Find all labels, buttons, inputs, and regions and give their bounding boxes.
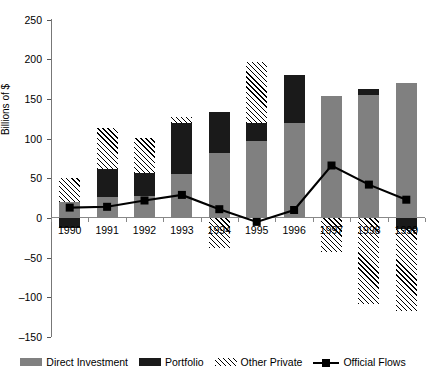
x-axis-tick-mark [163, 218, 164, 222]
official-flows-marker [141, 197, 149, 205]
official-flows-marker [290, 206, 298, 214]
chart-container: Billions of $ –150–100–50050100150200250… [0, 0, 426, 380]
official-flows-marker [103, 203, 111, 211]
x-axis-tick-mark [238, 218, 239, 222]
official-flows-marker [178, 191, 186, 199]
legend-label-direct-investment: Direct Investment [46, 356, 128, 368]
legend-item-portfolio: Portfolio [139, 356, 204, 368]
x-axis-tick-mark [350, 218, 351, 222]
x-axis-label-1998: 1998 [357, 224, 380, 236]
official-flows-marker [66, 204, 74, 212]
legend-label-official-flows: Official Flows [343, 356, 405, 368]
x-axis-tick-mark [275, 218, 276, 222]
x-axis-tick-mark [126, 218, 127, 222]
x-axis-label-1993: 1993 [170, 224, 193, 236]
x-axis-tick-mark [51, 218, 52, 222]
legend-swatch-direct-investment [20, 358, 42, 366]
legend-item-direct-investment: Direct Investment [20, 356, 128, 368]
official-flows-marker [365, 181, 373, 189]
chart-legend: Direct Investment Portfolio Other Privat… [0, 356, 426, 368]
legend-item-official-flows: Official Flows [313, 356, 405, 368]
x-axis-label-1999: 1999 [395, 224, 418, 236]
legend-label-portfolio: Portfolio [165, 356, 204, 368]
legend-item-other-private: Other Private [215, 356, 303, 368]
x-axis-label-1994: 1994 [208, 224, 231, 236]
official-flows-polyline [70, 166, 407, 222]
legend-label-other-private: Other Private [241, 356, 303, 368]
legend-swatch-official-flows [313, 358, 339, 367]
x-axis-label-1997: 1997 [320, 224, 343, 236]
x-axis-tick-mark [388, 218, 389, 222]
x-axis-label-1990: 1990 [58, 224, 81, 236]
x-axis-label-1996: 1996 [282, 224, 305, 236]
x-axis-tick-mark [201, 218, 202, 222]
official-flows-marker [215, 205, 223, 213]
x-axis-tick-mark [88, 218, 89, 222]
legend-swatch-other-private [215, 358, 237, 366]
x-axis-label-1991: 1991 [95, 224, 118, 236]
official-flows-line [0, 0, 426, 380]
x-axis-label-1992: 1992 [133, 224, 156, 236]
legend-swatch-portfolio [139, 358, 161, 366]
x-axis-tick-mark [313, 218, 314, 222]
official-flows-marker [328, 162, 336, 170]
official-flows-marker [402, 196, 410, 204]
x-axis-label-1995: 1995 [245, 224, 268, 236]
